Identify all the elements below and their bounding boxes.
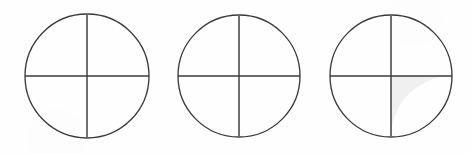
figure-canvas	[0, 0, 471, 154]
circle-one-group	[25, 14, 149, 138]
circle-three-group	[330, 15, 452, 137]
fraction-circles-figure	[0, 0, 471, 154]
circle-three-bottom-right-quadrant-shaded	[391, 76, 452, 137]
circle-two-group	[178, 15, 300, 137]
